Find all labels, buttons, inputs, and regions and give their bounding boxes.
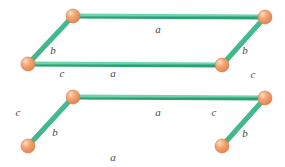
edges-layer	[28, 16, 265, 146]
vertex-front-bottom-right	[215, 139, 229, 153]
edge-label-a-middle: a	[110, 68, 116, 79]
edge-label-a-top: a	[155, 24, 161, 35]
edge-label-c-outer-right: c	[251, 69, 256, 80]
edge-depth-bottom-right	[222, 98, 265, 146]
prism-figure: aaaabbbbcccc	[0, 0, 285, 167]
edge-label-a-lower-middle: a	[155, 107, 161, 118]
edge-top-back	[73, 16, 265, 17]
vertex-back-top-left	[66, 9, 80, 23]
edge-label-b-bottom-right: b	[242, 128, 248, 139]
edge-depth-top-right	[222, 17, 265, 65]
edge-depth-top-left	[28, 16, 73, 64]
vertex-front-top-left	[21, 57, 35, 71]
prism-svg	[0, 0, 285, 167]
edge-label-b-top-right: b	[242, 45, 248, 56]
vertex-front-top-right	[215, 58, 229, 72]
edge-label-c-inner-left: c	[60, 68, 65, 79]
edge-bottom-back	[73, 97, 265, 98]
edge-label-b-bottom-left: b	[52, 127, 58, 138]
vertex-front-bottom-left	[21, 139, 35, 153]
vertex-back-bottom-left	[66, 90, 80, 104]
edge-label-a-bottom: a	[110, 152, 116, 163]
edge-depth-bottom-left	[28, 97, 73, 146]
edge-label-c-outer-left: c	[16, 107, 21, 118]
edge-label-b-top-left: b	[50, 45, 56, 56]
edge-top-front	[28, 64, 222, 65]
vertex-back-top-right	[258, 10, 272, 24]
vertex-back-bottom-right	[258, 91, 272, 105]
edge-label-c-inner-right: c	[212, 107, 217, 118]
